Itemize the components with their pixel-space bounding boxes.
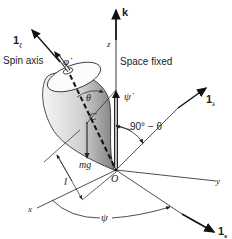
origin-label: O	[111, 174, 118, 184]
top-body	[43, 56, 114, 170]
psi-dot-label: ψ̇	[124, 91, 131, 102]
y-label: y	[216, 177, 220, 186]
weight-label: mg	[79, 160, 91, 170]
x-label: x	[28, 205, 32, 214]
k-label: k	[122, 7, 128, 18]
lever-arm-label: l	[64, 176, 67, 187]
kappa-axis	[116, 170, 182, 214]
top-diagram	[0, 0, 232, 239]
psi-label: ψ	[101, 212, 108, 223]
spin-axis-label: Spin axis	[3, 56, 44, 66]
x-axis	[37, 170, 116, 208]
y-axis	[116, 170, 216, 181]
kappa-unit-label: 1κ	[218, 226, 227, 239]
complement-angle-label: 90° − θ	[130, 122, 162, 132]
spin-axis-unit-label: 1ζ	[13, 35, 22, 48]
phi-dot-label: φ̇	[63, 56, 69, 67]
lambda-unit-label: 1λ	[206, 94, 215, 107]
center-of-mass-label: C	[89, 111, 96, 122]
theta-label: θ	[86, 93, 91, 103]
space-fixed-label: Space fixed	[120, 57, 172, 67]
lambda-axis	[116, 108, 178, 170]
z-label: z	[107, 40, 111, 49]
